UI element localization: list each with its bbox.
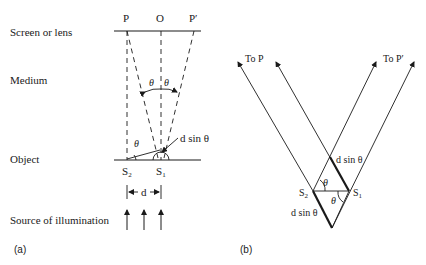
diffraction-diagram: Screen or lens Medium Object Source of i… [0,0,426,265]
ray-s2-to-p-prime [313,62,376,191]
label-medium: Medium [10,74,48,86]
label-d-sin-theta-upper: d sin θ [336,154,363,165]
panel-b: To P To P′ θ θ d sin θ d sin θ S2 S1 (b) [238,53,414,255]
theta-label-object: θ [134,138,139,149]
caption-b: (b) [240,244,252,255]
label-point-p-prime: P′ [189,12,198,24]
label-s2: S2 [122,165,132,179]
theta-label-s1: θ [331,195,336,206]
theta-arc-right [161,89,177,92]
label-point-p: P [123,12,129,24]
label-d-sin-theta-lower: d sin θ [291,207,318,218]
theta-label-left: θ [149,77,154,88]
label-s2: S2 [299,187,309,200]
path-difference-pointer [162,138,178,152]
theta-label-right: θ [164,77,169,88]
label-screen-or-lens: Screen or lens [10,26,72,38]
theta-arc-left [145,89,161,92]
theta-arc-s1 [338,191,343,202]
caption-a: (a) [14,244,26,255]
label-object: Object [10,153,39,165]
label-to-p-prime: To P′ [383,53,404,64]
theta-arc-object [134,155,136,160]
theta-label-s2: θ [323,177,328,188]
label-s1: S1 [353,187,363,200]
separation-label: d [141,186,147,198]
label-s1: S1 [156,165,166,179]
ray-s1-to-p-prime [332,62,414,228]
illumination-arrows [127,210,161,230]
label-to-p: To P [245,53,264,64]
label-source-of-illumination: Source of illumination [10,214,109,226]
ray-s2-to-p [238,62,313,191]
label-point-o: O [156,12,164,24]
path-difference-label: d sin θ [180,132,209,144]
panel-a: Screen or lens Medium Object Source of i… [10,12,209,255]
